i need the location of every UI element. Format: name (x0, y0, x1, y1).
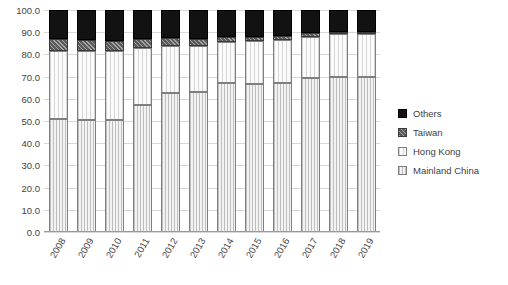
bar-segment-mainland-china (161, 93, 180, 232)
bar-segment-mainland-china (217, 83, 236, 232)
x-axis-line (44, 231, 380, 232)
x-tick-label: 2013 (187, 236, 207, 260)
x-tick-label: 2009 (75, 236, 95, 260)
bar-segment-taiwan (49, 39, 68, 51)
y-tick-label: 0.0 (27, 227, 40, 238)
legend-swatch-mainland (398, 166, 407, 175)
bar-segment-others (357, 10, 376, 32)
x-tick: 2014 (217, 234, 236, 282)
x-tick: 2015 (245, 234, 264, 282)
x-tick-label: 2012 (159, 236, 179, 260)
bar-segment-mainland-china (245, 84, 264, 232)
legend-label: Others (413, 108, 442, 119)
x-tick: 2011 (133, 234, 152, 282)
y-axis: 0.010.020.030.040.050.060.070.080.090.01… (0, 10, 40, 232)
bar-segment-taiwan (105, 41, 124, 51)
bar-segment-others (133, 10, 152, 39)
bar-segment-hong-kong (105, 51, 124, 120)
bar-segment-taiwan (189, 39, 208, 46)
stacked-bar-chart: 0.010.020.030.040.050.060.070.080.090.01… (0, 0, 508, 285)
x-tick: 2009 (77, 234, 96, 282)
bar-column (329, 10, 348, 232)
bar-segment-hong-kong (133, 48, 152, 106)
y-tick-label: 30.0 (22, 160, 41, 171)
bar-segment-others (329, 10, 348, 32)
bar-column (301, 10, 320, 232)
x-tick-label: 2008 (47, 236, 67, 260)
bar-column (357, 10, 376, 232)
x-tick-label: 2017 (299, 236, 319, 260)
bar-segment-mainland-china (301, 78, 320, 232)
y-tick-label: 70.0 (22, 71, 41, 82)
x-tick: 2008 (49, 234, 68, 282)
legend-swatch-others (398, 109, 407, 118)
bar-column (245, 10, 264, 232)
bar-column (77, 10, 96, 232)
y-tick-label: 50.0 (22, 116, 41, 127)
legend-item[interactable]: Taiwan (398, 123, 502, 141)
x-tick: 2016 (273, 234, 292, 282)
bar-column (273, 10, 292, 232)
bar-segment-hong-kong (357, 34, 376, 76)
bar-segment-taiwan (161, 38, 180, 46)
bar-segment-mainland-china (133, 105, 152, 232)
bar-segment-hong-kong (329, 34, 348, 76)
x-axis: 2008200920102011201220132014201520162017… (44, 234, 380, 282)
x-tick: 2010 (105, 234, 124, 282)
bar-column (133, 10, 152, 232)
x-tick: 2012 (161, 234, 180, 282)
x-tick-label: 2016 (271, 236, 291, 260)
x-tick: 2018 (329, 234, 348, 282)
y-tick-label: 80.0 (22, 49, 41, 60)
x-tick-label: 2010 (103, 236, 123, 260)
gridline (44, 232, 380, 233)
bar-series-group (44, 10, 380, 232)
y-tick-label: 60.0 (22, 93, 41, 104)
bar-segment-others (217, 10, 236, 37)
bar-segment-mainland-china (105, 120, 124, 232)
y-tick-label: 100.0 (16, 5, 40, 16)
x-tick-label: 2015 (243, 236, 263, 260)
bar-segment-mainland-china (273, 83, 292, 232)
x-tick-label: 2018 (327, 236, 347, 260)
legend-label: Mainland China (413, 165, 479, 176)
y-tick-label: 40.0 (22, 138, 41, 149)
x-tick-label: 2011 (132, 236, 152, 259)
bar-segment-mainland-china (49, 119, 68, 232)
legend-label: Taiwan (413, 127, 443, 138)
bar-segment-others (301, 10, 320, 33)
plot-area (44, 10, 380, 232)
bar-segment-hong-kong (217, 42, 236, 83)
y-tick-label: 20.0 (22, 182, 41, 193)
bar-column (49, 10, 68, 232)
legend-swatch-taiwan (398, 128, 407, 137)
bar-segment-taiwan (77, 40, 96, 51)
legend: OthersTaiwanHong KongMainland China (398, 104, 502, 180)
legend-item[interactable]: Mainland China (398, 161, 502, 179)
bar-segment-taiwan (133, 39, 152, 48)
bar-segment-others (189, 10, 208, 39)
x-tick-label: 2019 (355, 236, 375, 260)
legend-label: Hong Kong (413, 146, 461, 157)
x-tick-label: 2014 (215, 236, 235, 260)
x-tick: 2013 (189, 234, 208, 282)
bar-column (105, 10, 124, 232)
bar-segment-hong-kong (161, 46, 180, 94)
bar-segment-mainland-china (189, 92, 208, 232)
bar-segment-others (77, 10, 96, 40)
legend-item[interactable]: Others (398, 104, 502, 122)
bar-segment-hong-kong (245, 41, 264, 84)
bar-column (189, 10, 208, 232)
bar-segment-hong-kong (49, 51, 68, 119)
bar-segment-mainland-china (329, 77, 348, 232)
bar-segment-others (49, 10, 68, 39)
bar-segment-others (105, 10, 124, 41)
y-tick-label: 10.0 (22, 204, 41, 215)
x-tick: 2019 (357, 234, 376, 282)
bar-segment-mainland-china (357, 77, 376, 232)
bar-segment-hong-kong (273, 40, 292, 83)
bar-segment-others (245, 10, 264, 37)
legend-item[interactable]: Hong Kong (398, 142, 502, 160)
y-tick-label: 90.0 (22, 27, 41, 38)
bar-segment-others (273, 10, 292, 36)
